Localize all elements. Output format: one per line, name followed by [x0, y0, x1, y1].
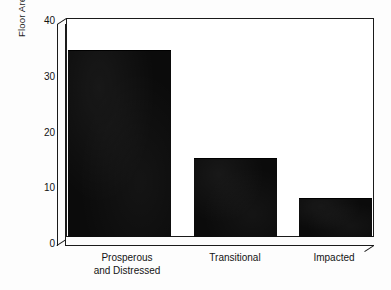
x-axis-category-labels: Prosperous and Distressed Transitional I…	[57, 252, 374, 288]
bar-chart-figure: Floor Area Per Person (M2) 40 30 20 10 0	[0, 0, 391, 290]
bars-layer	[66, 18, 374, 237]
y-tick-label-20: 20	[33, 126, 55, 137]
axis-floor-right-edge	[364, 245, 374, 252]
x-label-impacted: Impacted	[279, 252, 389, 265]
bar-prosperous-and-distressed	[68, 50, 171, 237]
bar-texture	[68, 51, 171, 237]
x-label-line-2: and Distressed	[57, 265, 197, 278]
bar-texture	[299, 199, 372, 237]
plot-area	[57, 18, 374, 246]
y-tick-label-30: 30	[33, 70, 55, 81]
bar-texture	[194, 159, 277, 237]
y-tick-label-0: 0	[33, 238, 55, 249]
axis-floor-slab	[66, 237, 374, 246]
y-tick-label-10: 10	[33, 182, 55, 193]
bar-impacted	[299, 198, 372, 237]
y-tick-label-40: 40	[33, 15, 55, 26]
x-label-line-1: Impacted	[313, 252, 354, 263]
y-axis-title: Floor Area Per Person (M2)	[16, 0, 32, 68]
bar-transitional	[194, 158, 277, 237]
x-label-line-1: Prosperous	[101, 252, 152, 263]
x-label-transitional: Transitional	[175, 252, 295, 265]
y-axis-tick-labels: 40 30 20 10 0	[33, 0, 55, 290]
x-label-line-1: Transitional	[209, 252, 260, 263]
axis-left-wall	[57, 24, 66, 246]
y-axis-title-line-1: Floor Area Per Person	[16, 0, 27, 37]
